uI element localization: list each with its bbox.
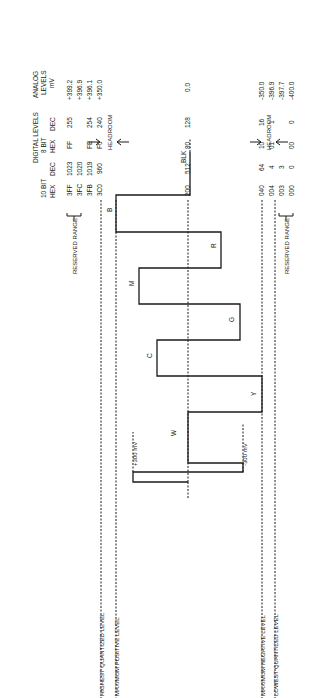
dec10-value: 1023 [66,161,73,176]
table-row: -397.7 3 003 [278,81,285,196]
bar-label-m: M [128,281,135,286]
analog-title-3: mV [48,78,55,88]
table-row: -400.0 0 00 0 000 [288,81,295,196]
digital-levels-title: DIGITAL LEVELS [32,111,39,163]
minus300-label: -300 mV [242,443,248,466]
dec10-value: 0 [288,165,295,169]
dec8-value: 240 [96,117,103,128]
arrow-up-icon [276,139,288,145]
bar-label-w: W [170,429,177,436]
hex10-value: 003 [278,185,285,196]
headroom-top: HEADROOM [88,115,129,150]
bit10-label: 10 BIT [40,179,47,198]
dec10-value: 64 [258,163,265,171]
dec8-value: 16 [258,118,265,126]
analog-value: -397.7 [278,81,285,100]
hex10-value: 040 [258,185,265,196]
analog-value: +399.2 [66,80,73,100]
analog-value: -350.0 [258,81,265,100]
max-negative-label: MAXIMUM NEGATIVE LEVEL [260,614,266,696]
table-row: +396.9 1020 3FC [76,80,83,196]
analog-value: 0.0 [184,83,191,92]
col-dec-10: DEC [49,162,56,176]
arrow-up-icon [117,139,129,145]
max-positive-label: MAXIMUM POSITIVE LEVEL [114,617,120,696]
analog-value: +396.1 [86,80,93,100]
hex10-value: 3FB [86,184,93,196]
headroom-top-label: HEADROOM [107,115,113,150]
bit8-label: 8 BIT [40,137,47,153]
dec8-value: 254 [86,117,93,128]
analog-value: +396.9 [76,80,83,100]
highest-quantized-label: HIGHEST QUANTIZED LEVEL [99,612,105,696]
hex8-value: FE [86,140,93,149]
reserved-range-top-label: RESERVED RANGE [72,218,78,274]
col-hex-8: HEX [49,139,56,153]
bar-label-c: C [146,353,153,358]
headroom-bottom: HEADROOM [250,115,288,150]
reserved-range-bottom: RESERVED RANGE [279,213,293,274]
col-dec-8: DEC [49,117,56,131]
table-row: +396.1 254 FE 1019 3FB [86,80,93,196]
hex10-value: 004 [268,185,275,196]
bar-label-b: B [106,208,113,212]
analog-value: +350.0 [96,80,103,100]
headroom-bottom-label: HEADROOM [266,115,272,150]
bar-label-g: G [228,317,235,322]
col-hex-10: HEX [49,184,56,198]
dec8-value: 0 [288,120,295,124]
lowest-quantized-label: LOWEST QUANTIZED LEVEL [273,613,279,696]
dec10-value: 3 [278,165,285,169]
color-bar-waveform [116,152,262,482]
dec8-value: 128 [184,117,191,128]
hex10-value: 3C0 [96,184,103,196]
bar-label-y: Y [250,391,257,396]
table-header: ANALOG LEVELS mV DIGITAL LEVELS 8 BIT 10… [32,70,56,198]
hex8-value: 00 [288,141,295,149]
analog-value: -400.0 [288,81,295,100]
hex8-value: 10 [258,141,265,149]
dec10-value: 1019 [86,161,93,176]
hex10-value: 3FF [66,184,73,196]
hex8-value: FF [66,141,73,149]
bar-label-r: R [210,243,217,248]
dec10-value: 960 [96,163,103,174]
video-levels-diagram: ANALOG LEVELS mV DIGITAL LEVELS 8 BIT 10… [0,0,314,698]
reserved-range-bottom-label: RESERVED RANGE [284,218,290,274]
hex10-value: 000 [288,185,295,196]
table-row: +399.2 255 FF 1023 3FF [66,80,73,196]
analog-title-1: ANALOG [32,71,39,98]
plus300-label: +300 mV [132,442,138,466]
table-row: +350.0 240 F0 960 3C0 [96,80,103,196]
dec10-value: 1020 [76,161,83,176]
analog-value: -396.9 [268,81,275,100]
dec10-value: 4 [268,165,275,169]
reserved-range-top: RESERVED RANGE [67,213,81,274]
table-row: -350.0 16 10 64 040 [258,81,265,196]
bar-label-blk: BLK [180,150,187,163]
analog-title-2: LEVELS [40,70,47,95]
hex10-value: 3FC [76,183,83,196]
dec8-value: 255 [66,117,73,128]
